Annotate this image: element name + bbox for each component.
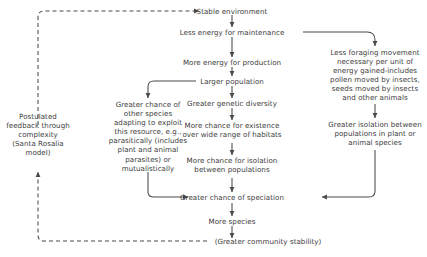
edge-community-stability-to-postulated-feedback [38,172,207,241]
node-greater-chance-other-species: Greater chance of other species adapting… [97,100,199,173]
node-postulated-feedback: Postulated feedback through complexity (… [0,112,87,157]
node-less-foraging-movement: Less foraging movement necessary per uni… [322,48,427,103]
node-stable-environment: Stable environment [197,7,268,16]
node-more-chance-for-isolation: More chance for isolation between popula… [187,156,278,174]
node-greater-isolation-populations: Greater isolation between populations in… [321,120,427,147]
node-more-species: More species [209,217,256,226]
edge-less-energy-to-less-foraging [303,32,375,46]
node-greater-chance-of-speciation: Greater chance of speciation [180,193,284,202]
flow-diagram: Stable environment Less energy for maint… [0,0,427,257]
node-less-energy-for-maintenance: Less energy for maintenance [180,28,285,37]
node-more-energy-for-production: More energy for production [183,58,281,67]
node-larger-population: Larger population [200,77,264,86]
node-greater-genetic-diversity: Greater genetic diversity [187,99,277,108]
edge-greater-isolation-to-speciation [322,150,375,197]
node-greater-community-stability: (Greater community stability) [215,237,322,246]
edge-larger-population-to-other-species [148,81,196,98]
